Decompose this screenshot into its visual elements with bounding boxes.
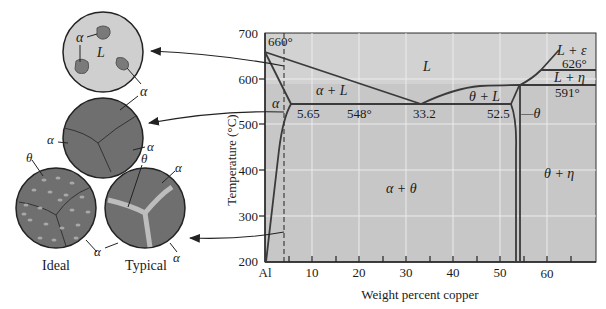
- svg-text:Al: Al: [259, 265, 272, 280]
- label-alpha: α: [272, 96, 280, 111]
- svg-text:α: α: [173, 250, 181, 265]
- x-tick-labels: Al 10 20 30 40 50 60: [259, 265, 554, 281]
- svg-text:20: 20: [353, 265, 366, 280]
- annotation-591: 591°: [555, 85, 580, 100]
- svg-text:50: 50: [494, 265, 507, 280]
- annotation-5-65: 5.65: [297, 106, 320, 121]
- svg-text:α: α: [47, 132, 55, 147]
- plot-area: L α + L α θ + L α + θ θ + η L + ε L + η …: [224, 26, 596, 302]
- label-theta-plus-L: θ + L: [469, 89, 500, 104]
- arrow-to-alpha-grains: [149, 112, 284, 123]
- annotation-626: 626°: [562, 56, 587, 71]
- label-L: L: [422, 59, 431, 74]
- annotation-52-5: 52.5: [487, 106, 510, 121]
- svg-text:40: 40: [447, 265, 460, 280]
- x-axis-label: Weight percent copper: [361, 287, 479, 302]
- microstructure-liquid-alpha: α L α: [63, 12, 148, 99]
- phase-diagram-figure: L α + L α θ + L α + θ θ + η L + ε L + η …: [0, 0, 606, 309]
- label-theta-plus-eta: θ + η: [544, 166, 574, 181]
- svg-text:300: 300: [239, 209, 259, 224]
- svg-text:400: 400: [239, 163, 259, 178]
- annotation-33-2: 33.2: [413, 106, 436, 121]
- svg-text:α: α: [94, 244, 102, 259]
- label-theta: —θ: [520, 106, 540, 121]
- svg-text:α: α: [175, 160, 183, 175]
- svg-text:60: 60: [541, 266, 554, 281]
- svg-text:θ: θ: [141, 151, 148, 166]
- svg-text:500: 500: [239, 117, 259, 132]
- svg-text:α: α: [140, 84, 148, 99]
- svg-text:700: 700: [239, 26, 259, 41]
- label-alpha-plus-L: α + L: [316, 83, 348, 98]
- svg-text:α: α: [76, 30, 84, 45]
- svg-text:10: 10: [306, 265, 319, 280]
- label-L-plus-eta: L + η: [553, 70, 585, 85]
- label-alpha-plus-theta: α + θ: [386, 181, 417, 196]
- caption-typical: Typical: [125, 258, 167, 273]
- y-axis-ticks: [259, 79, 265, 216]
- svg-text:200: 200: [239, 254, 259, 269]
- svg-text:30: 30: [400, 265, 413, 280]
- annotation-660: 660°: [268, 34, 293, 49]
- y-axis-label: Temperature (°C): [224, 114, 239, 205]
- y-tick-labels: 700 600 500 400 300 200: [239, 26, 259, 269]
- svg-text:600: 600: [239, 72, 259, 87]
- caption-ideal: Ideal: [42, 258, 70, 273]
- microstructure-alpha-grains: α α: [47, 96, 155, 178]
- svg-text:L: L: [96, 45, 105, 60]
- arrow-to-liquid-alpha: [151, 51, 284, 66]
- svg-text:θ: θ: [26, 150, 33, 165]
- svg-text:α: α: [147, 139, 155, 154]
- annotation-548: 548°: [347, 106, 372, 121]
